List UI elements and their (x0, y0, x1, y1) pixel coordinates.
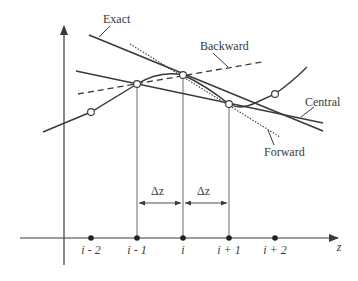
node-i-minus-2 (88, 109, 95, 116)
node-i-minus-1 (134, 81, 141, 88)
z-axis-label: z (336, 240, 342, 254)
backward-leader (213, 53, 228, 67)
exact-curve (43, 67, 307, 132)
delta-z-left-label: Δz (151, 184, 164, 198)
forward-label: Forward (264, 145, 305, 159)
tick-label-i-plus-2: i + 2 (263, 243, 286, 257)
delta-z-right-label: Δz (197, 184, 210, 198)
backward-line (78, 62, 262, 94)
central-line (76, 71, 323, 123)
forward-line (130, 44, 280, 137)
tick-label-i: i (181, 243, 184, 257)
finite-difference-diagram: Δz Δz Exact Backward Central Forward i -… (0, 0, 358, 281)
tick-label-i-minus-1: i - 1 (127, 243, 146, 257)
tick-label-i-plus-1: i + 1 (217, 243, 240, 257)
exact-label: Exact (103, 12, 131, 26)
axis-dot-i-minus-1 (134, 235, 140, 241)
exact-leader (99, 26, 110, 37)
backward-label: Backward (200, 39, 249, 53)
node-i (180, 72, 187, 79)
axis-dot-i-plus-1 (226, 235, 232, 241)
axis-dot-i (180, 235, 186, 241)
central-label: Central (305, 95, 341, 109)
node-i-plus-1 (226, 101, 233, 108)
node-i-plus-2 (272, 91, 279, 98)
tick-label-i-minus-2: i - 2 (81, 243, 100, 257)
axis-dot-i-plus-2 (272, 235, 278, 241)
axis-dot-i-minus-2 (88, 235, 94, 241)
